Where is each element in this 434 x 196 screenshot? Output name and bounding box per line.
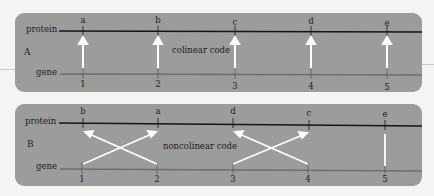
panel-id: B: [27, 140, 34, 149]
protein-letter: e: [384, 19, 389, 28]
gene-number: 2: [155, 80, 160, 89]
protein-letter: a: [80, 16, 85, 25]
protein-letter: d: [230, 107, 235, 116]
gene-label: gene: [36, 68, 57, 77]
gene-number: 5: [382, 175, 387, 184]
protein-letter: d: [308, 17, 313, 26]
gene-label: gene: [36, 162, 57, 171]
protein-letter: a: [155, 107, 160, 116]
panel-noncolinear: protein gene B noncolinear code b a d c …: [15, 104, 422, 186]
protein-letter: b: [80, 107, 85, 116]
gene-number: 5: [384, 83, 389, 92]
arrow-icons: [79, 37, 391, 68]
gene-number: 4: [305, 175, 310, 184]
gene-line: [60, 169, 422, 171]
gene-number: 4: [308, 82, 313, 91]
protein-letter: c: [307, 109, 312, 118]
protein-line: [59, 123, 422, 126]
protein-letter: b: [155, 16, 160, 25]
gene-number: 2: [154, 175, 159, 184]
gene-number: 1: [79, 175, 84, 184]
panel-colinear: protein gene A colinear code a b c d e 1…: [15, 13, 422, 92]
protein-line: [59, 31, 422, 32]
caption: colinear code: [172, 46, 230, 55]
panel-id: A: [24, 48, 31, 57]
protein-letter: c: [233, 18, 238, 27]
gene-line: [60, 74, 422, 75]
gene-number: 3: [230, 175, 235, 184]
protein-letter: e: [382, 110, 387, 119]
protein-label: protein: [25, 117, 56, 126]
protein-label: protein: [26, 25, 57, 34]
caption: noncolinear code: [163, 142, 237, 151]
gene-number: 1: [80, 80, 85, 89]
gene-number: 3: [232, 82, 237, 91]
